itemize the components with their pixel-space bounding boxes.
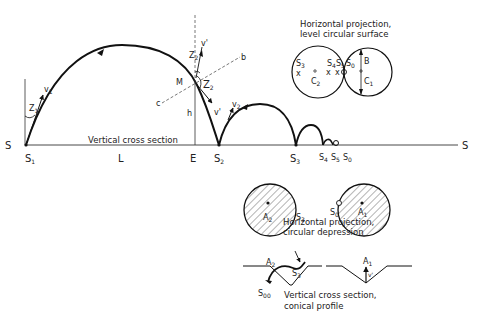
cone-profile-left — [243, 266, 322, 285]
label-s2: S2 — [214, 153, 224, 165]
label-s00-cone: S00 — [258, 289, 271, 299]
label-c2: C2 — [311, 77, 321, 87]
incoming-arrow — [295, 251, 300, 262]
label-x1: x — [296, 69, 301, 78]
arrow-icon — [265, 280, 272, 284]
center-c2-dot — [314, 70, 316, 72]
label-v1: v1 — [44, 85, 53, 95]
label-s3: S3 — [290, 153, 300, 165]
point-s3 — [294, 143, 297, 146]
caption-level-line2: level circular surface — [300, 29, 389, 39]
label-s-end: S — [462, 140, 468, 151]
label-z2-top: Z2 — [189, 51, 198, 61]
trajectory-diagram: S S S1 L E S2 S3 S4 S5 S0 Vertical cross… — [0, 0, 484, 324]
label-s3-top: S3 — [296, 59, 305, 69]
point-s2 — [217, 143, 220, 146]
z1-angle-arc — [25, 115, 35, 118]
label-s1: S1 — [25, 153, 35, 165]
label-x3: x — [335, 68, 340, 77]
label-s5: S5 — [331, 153, 340, 163]
caption-depression-line2: circular depression — [283, 227, 364, 237]
trajectory-arc-3 — [296, 125, 323, 145]
label-l: L — [118, 153, 124, 164]
label-s3-cone: S3 — [292, 269, 301, 279]
label-s0-top: S0 — [346, 59, 355, 69]
trajectory-arc-2 — [219, 104, 296, 145]
label-a1-cone: A1 — [363, 257, 372, 267]
trajectory-arc-4 — [323, 139, 333, 145]
caption-conical-line2: conical profile — [284, 301, 343, 311]
v1-vector — [26, 95, 43, 145]
label-v-prime-cone: v' — [368, 271, 374, 278]
label-s-start: S — [5, 140, 11, 151]
label-s4: S4 — [319, 153, 328, 163]
level-circular-surface: Horizontal projection, level circular su… — [292, 19, 392, 98]
label-v-prime-top: v' — [201, 39, 208, 48]
vertical-cross-section: S S S1 L E S2 S3 S4 S5 S0 Vertical cross… — [5, 15, 468, 165]
label-v-prime-bottom: v' — [214, 108, 221, 117]
circle-c1 — [344, 48, 392, 96]
caption-level-line1: Horizontal projection, — [300, 19, 391, 29]
caption-vertical-cross-section: Vertical cross section — [88, 135, 178, 145]
center-a1-dot — [360, 201, 363, 204]
trajectory-arc-1 — [26, 45, 219, 145]
conical-profile: A2 S3 S00 A1 v' Vertical cross section, … — [243, 251, 412, 311]
label-v2: v2 — [232, 100, 241, 110]
rest-point-s0-mid — [337, 201, 342, 206]
label-c: c — [156, 99, 160, 108]
label-s0: S0 — [343, 153, 352, 163]
label-s5-top: S5 — [336, 59, 345, 69]
label-b-diameter: B — [364, 57, 370, 66]
label-c1: C1 — [364, 77, 374, 87]
label-m: M — [176, 78, 183, 87]
label-s4-top: S4 — [327, 59, 336, 69]
label-a2-cone: A2 — [266, 258, 275, 268]
label-z1: Z1 — [29, 104, 38, 114]
label-e: E — [190, 153, 196, 164]
label-b: b — [241, 53, 246, 62]
caption-depression-line1: Horizontal projection, — [283, 217, 374, 227]
circular-depression: A2 S3 S0 A1 Horizontal projection, circu… — [244, 184, 390, 237]
label-h: h — [187, 109, 192, 118]
center-a2-dot — [266, 201, 269, 204]
label-z2: Z2 — [203, 79, 214, 91]
label-x2: x — [326, 68, 331, 77]
caption-conical-line1: Vertical cross section, — [284, 290, 377, 300]
